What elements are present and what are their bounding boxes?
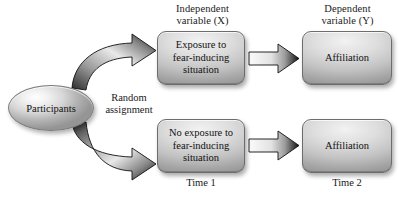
participants-node: Participants <box>8 85 94 131</box>
outcome-box-experimental: Affiliation <box>302 31 392 85</box>
condition-box-experimental-label: Exposure to fear-inducing situation <box>168 39 234 76</box>
random-assignment-label: Random assignment <box>95 92 163 117</box>
time-label-time1: Time 1 <box>157 177 245 189</box>
column-header-dependent-variable: Dependent variable (Y) <box>300 3 395 28</box>
outcome-box-experimental-label: Affiliation <box>320 52 374 64</box>
condition-box-experimental: Exposure to fear-inducing situation <box>157 31 245 85</box>
column-header-independent-variable: Independent variable (X) <box>155 3 250 28</box>
condition-box-control: No exposure to fear-inducing situation <box>157 119 245 173</box>
experimental-design-diagram: Independent variable (X) Dependent varia… <box>0 0 399 197</box>
time-label-time2: Time 2 <box>302 177 392 189</box>
outcome-box-control: Affiliation <box>302 119 392 173</box>
arrow-no-exposure-to-affiliation <box>249 131 299 160</box>
arrow-exposure-to-affiliation <box>249 44 299 73</box>
participants-label: Participants <box>26 103 76 114</box>
arrow-random-assignment-control <box>72 122 156 180</box>
arrow-random-assignment-experimental <box>72 34 156 90</box>
condition-box-control-label: No exposure to fear-inducing situation <box>164 127 238 164</box>
outcome-box-control-label: Affiliation <box>320 140 374 152</box>
